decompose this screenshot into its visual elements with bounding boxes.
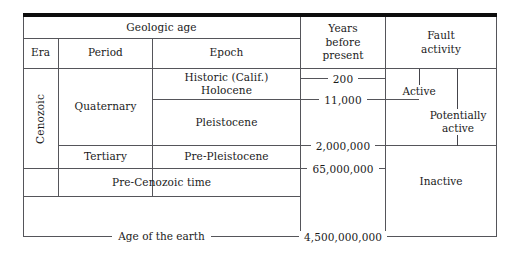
tick-potentially-active-top [457, 69, 458, 109]
period-tertiary: Tertiary [59, 146, 152, 168]
header-years-before-present-label: Years before present [322, 22, 363, 62]
chart-frame: Geologic age Era Period Epoch Years befo… [23, 13, 497, 237]
period-quaternary-label: Quaternary [74, 100, 136, 113]
year-marker-11000: 11,000 [301, 91, 385, 108]
epoch-pleistocene: Pleistocene [153, 100, 300, 145]
year-marker-11000-label: 11,000 [319, 94, 366, 106]
year-marker-2000000: 2,000,000 [301, 137, 385, 154]
epoch-historic-holocene: Historic (Calif.) Holocene [153, 69, 300, 99]
year-marker-65000000-label: 65,000,000 [307, 163, 378, 175]
fault-activity-potentially-active: Potentially active [423, 109, 493, 135]
epoch-pre-pleistocene-label: Pre-Pleistocene [184, 150, 268, 163]
year-marker-200-label: 200 [328, 73, 358, 85]
fault-activity-inactive: Inactive [386, 173, 496, 191]
fault-activity-potentially-active-label: Potentially active [426, 109, 491, 135]
year-marker-4500000000-label: 4,500,000,000 [299, 231, 387, 243]
header-epoch-label: Epoch [210, 46, 244, 59]
epoch-pleistocene-label: Pleistocene [195, 116, 257, 129]
fault-activity-active-label: Active [398, 85, 439, 98]
header-period: Period [59, 38, 152, 68]
header-geologic-age-label: Geologic age [126, 21, 196, 34]
year-marker-65000000: 65,000,000 [301, 160, 385, 177]
border-right [496, 17, 497, 237]
fault-activity-active: Active [389, 84, 449, 100]
age-of-the-earth-label: Age of the earth [112, 230, 210, 242]
year-marker-4500000000: 4,500,000,000 [301, 228, 385, 245]
header-era: Era [23, 38, 58, 68]
pre-cenozoic-time: Pre-Cenozoic time [23, 169, 300, 196]
tick-active-top [419, 69, 420, 85]
year-marker-2000000-label: 2,000,000 [311, 140, 375, 152]
era-cenozoic-label: Cenozoic [35, 93, 47, 143]
epoch-pre-pleistocene: Pre-Pleistocene [153, 146, 300, 168]
year-marker-200: 200 [301, 70, 385, 87]
age-of-the-earth: Age of the earth [23, 226, 300, 246]
header-geologic-age: Geologic age [23, 17, 300, 38]
header-epoch: Epoch [153, 38, 300, 68]
header-fault-activity-label: Fault activity [421, 29, 461, 56]
fault-activity-inactive-label: Inactive [416, 175, 467, 188]
leader-4500000000-fault [385, 236, 496, 237]
period-tertiary-label: Tertiary [84, 150, 127, 163]
header-fault-activity: Fault activity [386, 17, 496, 68]
header-period-label: Period [88, 46, 123, 59]
epoch-historic-holocene-label: Historic (Calif.) Holocene [185, 71, 269, 98]
header-era-label: Era [31, 46, 50, 59]
pre-cenozoic-time-label: Pre-Cenozoic time [112, 176, 211, 189]
header-years-before-present: Years before present [301, 17, 385, 68]
rule-precenozoic-bottom [23, 196, 300, 197]
period-quaternary: Quaternary [59, 69, 152, 145]
geologic-time-fault-activity-chart: Geologic age Era Period Epoch Years befo… [0, 0, 520, 259]
era-cenozoic: Cenozoic [23, 69, 58, 168]
